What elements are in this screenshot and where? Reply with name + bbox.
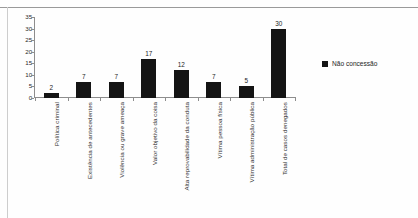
bar <box>109 82 124 98</box>
bar-value-label: 7 <box>104 74 128 80</box>
x-axis-category-labels: Política criminalExistência de anteceden… <box>35 102 295 212</box>
bar-value-label: 5 <box>234 78 258 84</box>
plot-area: 27717127530 <box>35 17 295 98</box>
bar-value-label: 17 <box>137 51 161 57</box>
y-axis-tick-mark <box>31 86 34 87</box>
bar <box>206 82 221 98</box>
x-axis-tick-mark <box>133 98 134 101</box>
y-axis-tick-label: 30 <box>14 26 32 32</box>
x-axis-category-label: Política criminal <box>54 102 60 146</box>
bar <box>44 93 59 98</box>
scanned-page: 35302520151050 27717127530 Política crim… <box>0 0 418 218</box>
x-axis-tick-mark <box>68 98 69 101</box>
x-axis-tick-mark <box>100 98 101 101</box>
y-axis-tick-mark <box>31 29 34 30</box>
y-axis-tick-mark <box>31 63 34 64</box>
bar <box>239 86 254 98</box>
x-axis-tick-mark <box>230 98 231 101</box>
bar <box>271 29 286 98</box>
y-axis-tick-label: 15 <box>14 60 32 66</box>
y-axis-tick-mark <box>31 17 34 18</box>
x-axis-category-label: Valor objetivo da coisa <box>152 102 158 165</box>
x-axis-tick-mark <box>263 98 264 101</box>
y-axis-tick-mark <box>31 75 34 76</box>
x-axis-tick-mark <box>198 98 199 101</box>
bar-value-label: 7 <box>72 74 96 80</box>
x-axis-tick-mark <box>165 98 166 101</box>
legend-swatch-icon <box>322 61 328 67</box>
y-axis-tick-label: 25 <box>14 37 32 43</box>
y-axis-tick-label: 0 <box>14 95 32 101</box>
x-axis-category-label: Vítima administração pública <box>249 102 255 183</box>
y-axis-tick-mark <box>31 98 34 99</box>
chart-legend: Não concessão <box>322 61 377 68</box>
bar <box>141 59 156 98</box>
bar <box>174 70 189 98</box>
x-axis-category-label: Total de casos denegados <box>282 102 288 175</box>
x-axis-tick-mark <box>295 98 296 101</box>
y-axis-tick-label: 10 <box>14 72 32 78</box>
y-axis-tick-label: 20 <box>14 49 32 55</box>
x-axis-category-label: Existência de antecedentes <box>87 102 93 179</box>
x-axis-category-label: Alta reprovabilidade da conduta <box>184 102 190 191</box>
legend-label: Não concessão <box>332 61 377 68</box>
bar <box>76 82 91 98</box>
bar-value-label: 12 <box>169 62 193 68</box>
bar-value-label: 30 <box>267 21 291 27</box>
y-axis-tick-labels: 35302520151050 <box>10 8 32 108</box>
x-axis-category-label: Vítima pessoa física <box>217 102 223 158</box>
y-axis-tick-mark <box>31 40 34 41</box>
bar-value-label: 7 <box>202 74 226 80</box>
x-axis-tick-mark <box>35 98 36 101</box>
y-axis-tick-mark <box>31 52 34 53</box>
y-axis-tick-label: 5 <box>14 83 32 89</box>
y-axis-tick-label: 35 <box>14 14 32 20</box>
bar-chart: 35302520151050 27717127530 Política crim… <box>0 8 418 218</box>
x-axis-category-label: Violência ou grave ameaça <box>119 102 125 178</box>
bar-value-label: 2 <box>39 85 63 91</box>
